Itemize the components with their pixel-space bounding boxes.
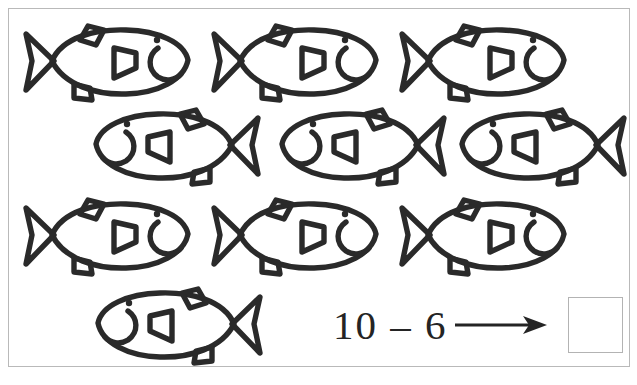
fish-icon xyxy=(452,104,632,186)
arrow-icon xyxy=(453,312,549,338)
fish-icon xyxy=(272,104,452,186)
fish-icon xyxy=(394,194,574,276)
equation-row: 10 – 6 xyxy=(333,292,563,358)
fish-icon xyxy=(86,104,266,186)
fish-icon xyxy=(206,194,386,276)
answer-box[interactable] xyxy=(568,297,623,353)
fish-icon xyxy=(394,20,574,102)
worksheet-page: 10 – 6 xyxy=(0,0,637,385)
fish-icon xyxy=(18,20,198,102)
fish-icon xyxy=(18,194,198,276)
fish-icon xyxy=(206,20,386,102)
fish-icon xyxy=(88,283,268,365)
equation-text: 10 – 6 xyxy=(333,292,448,358)
